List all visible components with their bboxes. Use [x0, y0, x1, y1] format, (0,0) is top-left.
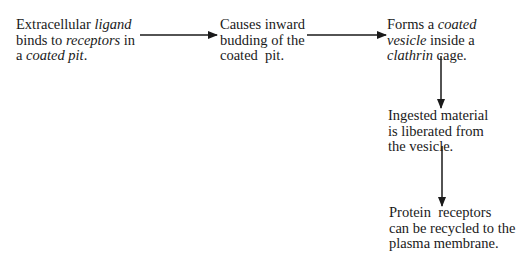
term-vesicle: vesicle [387, 32, 426, 48]
step2-node: Causes inward budding of the coated pit. [220, 17, 305, 64]
term-receptors: receptors [66, 32, 120, 48]
text-segment: in [120, 32, 135, 48]
text-segment: binds to [16, 32, 66, 48]
text-segment: Forms a [387, 16, 438, 32]
term-clathrin: clathrin [387, 47, 433, 63]
step1-line3: a coated pit. [16, 48, 135, 64]
text-segment: cage. [433, 47, 467, 63]
step5-node: Protein receptors can be recycled to the… [389, 205, 515, 252]
step1-line2: binds to receptors in [16, 33, 135, 49]
step4-node: Ingested material is liberated from the … [388, 108, 488, 155]
term-coated: coated [438, 16, 477, 32]
step2-line3: coated pit. [220, 48, 305, 64]
step5-line3: plasma membrane. [389, 236, 515, 252]
step3-line3: clathrin cage. [387, 48, 476, 64]
text-segment: a [16, 47, 26, 63]
term-coated-pit: coated pit [26, 47, 84, 63]
step1-node: Extracellular ligand binds to receptors … [16, 17, 135, 64]
step3-line2: vesicle inside a [387, 33, 476, 49]
step1-line1: Extracellular ligand [16, 17, 135, 33]
step4-line2: is liberated from [388, 124, 488, 140]
step2-line2: budding of the [220, 33, 305, 49]
step3-line1: Forms a coated [387, 17, 476, 33]
text-segment: inside a [426, 32, 474, 48]
step3-node: Forms a coated vesicle inside a clathrin… [387, 17, 476, 64]
step4-line1: Ingested material [388, 108, 488, 124]
step5-line2: can be recycled to the [389, 221, 515, 237]
step2-line1: Causes inward [220, 17, 305, 33]
step4-line3: the vesicle. [388, 139, 488, 155]
text-segment: . [84, 47, 88, 63]
text-segment: Extracellular [16, 16, 95, 32]
step5-line1: Protein receptors [389, 205, 515, 221]
term-ligand: ligand [95, 16, 132, 32]
